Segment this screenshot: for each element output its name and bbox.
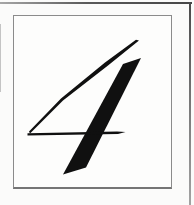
numeral-4-glyph: [0, 0, 194, 205]
scanned-page-background: 4: [0, 0, 194, 205]
numeral-4-crossbar-stroke: [28, 132, 126, 136]
numeral-4-stem-stroke: [63, 58, 141, 175]
